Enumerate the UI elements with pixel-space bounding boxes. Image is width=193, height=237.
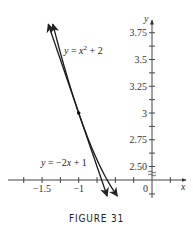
- x-axis-label: x: [180, 181, 186, 192]
- eq-equals: =: [68, 45, 79, 56]
- origin-label: 0: [143, 183, 148, 194]
- y-tick-label: 2.50: [130, 161, 148, 172]
- figure-caption: FIGURE 31: [17, 212, 175, 225]
- eq-mid: = −2: [45, 157, 66, 168]
- x-tick-label: −1.5: [33, 183, 51, 194]
- x-tick-label: −1: [73, 183, 84, 194]
- eq-rest: + 2: [87, 45, 103, 56]
- y-axis-label: y: [143, 13, 149, 24]
- eq-rest: + 1: [71, 157, 87, 168]
- axes: −1.5−1 3.753.53.2532.752.50 x y 0: [8, 13, 186, 198]
- y-axis-tick-labels: 3.753.53.2532.752.50: [130, 27, 148, 172]
- y-tick-label: 2.75: [130, 134, 148, 145]
- y-tick-label: 3.5: [135, 54, 148, 65]
- tangent-point: [77, 111, 81, 115]
- figure-31-graph: −1.5−1 3.753.53.2532.752.50 x y 0 y = x2…: [0, 0, 193, 237]
- y-tick-label: 3.25: [130, 81, 148, 92]
- y-tick-label: 3: [142, 108, 147, 119]
- y-tick-label: 3.75: [130, 27, 148, 38]
- tangent-line-equation-label: y = −2x + 1: [40, 157, 87, 168]
- parabola-equation-label: y = x2 + 2: [63, 44, 103, 56]
- x-axis-tick-labels: −1.5−1: [33, 183, 84, 194]
